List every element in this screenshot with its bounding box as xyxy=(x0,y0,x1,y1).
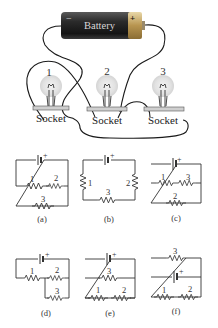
resistor-label: 2 xyxy=(173,191,177,201)
resistor-label: 3 xyxy=(173,246,177,256)
bulb-number: 1 xyxy=(46,66,52,78)
circuit-wire xyxy=(85,259,135,298)
resistor-3 xyxy=(97,197,118,203)
resistor-label: 1 xyxy=(30,266,34,276)
socket-base xyxy=(33,106,69,110)
schematic-e: + 3 1 2 (e) xyxy=(85,250,135,318)
circuit-figure: − + Battery 1 Socket 2 Socket 3 Socket xyxy=(0,0,218,328)
schematic-b: + 1 2 3 (b) xyxy=(80,151,138,224)
resistor-label: 2 xyxy=(55,265,59,275)
resistor-3 xyxy=(47,296,65,301)
battery-plus: + xyxy=(45,250,50,259)
bulb-1: 1 Socket xyxy=(33,66,69,124)
resistor-2 xyxy=(132,171,138,193)
resistor-label: 2 xyxy=(54,173,58,183)
battery-plus: + xyxy=(112,250,117,259)
schematic-caption: (a) xyxy=(37,214,47,224)
battery-plus: + xyxy=(179,267,184,276)
bulb-number: 2 xyxy=(104,65,110,77)
resistor-label: 1 xyxy=(96,285,100,295)
resistor-1 xyxy=(88,295,108,300)
resistor-label: 3 xyxy=(107,266,111,276)
schematic-caption: (e) xyxy=(105,308,115,318)
circuit-wire xyxy=(16,259,69,298)
schematic-a: + 1 2 3 (a) xyxy=(16,151,68,224)
resistor-label: 2 xyxy=(122,285,126,295)
schematic-caption: (c) xyxy=(171,213,181,223)
socket-label: Socket xyxy=(148,114,178,126)
schematic-caption: (b) xyxy=(104,214,114,224)
resistor-2 xyxy=(166,200,186,205)
resistor-label: 2 xyxy=(126,178,130,188)
resistor-label: 1 xyxy=(162,285,166,295)
resistor-2 xyxy=(46,184,64,189)
battery-plus: + xyxy=(43,151,48,160)
resistor-label: 3 xyxy=(186,172,190,182)
resistor-label: 1 xyxy=(161,172,165,182)
resistor-1 xyxy=(80,171,86,193)
resistor-2 xyxy=(111,295,131,300)
battery-plus: + xyxy=(177,155,182,164)
battery-label: Battery xyxy=(84,20,116,31)
schematic-caption: (f) xyxy=(172,306,181,316)
schematic-caption: (d) xyxy=(41,308,51,318)
bulb-3: 3 Socket xyxy=(144,65,184,126)
battery-photo: − + Battery xyxy=(61,12,145,39)
socket-label: Socket xyxy=(36,112,66,124)
resistor-label: 3 xyxy=(41,194,45,204)
resistor-label: 1 xyxy=(88,178,92,188)
bulb-2: 2 Socket xyxy=(87,65,127,126)
resistor-1 xyxy=(154,294,174,299)
socket-label: Socket xyxy=(92,114,122,126)
resistor-label: 3 xyxy=(106,187,110,197)
battery-positive-sign: + xyxy=(130,13,135,23)
resistor-3 xyxy=(166,255,186,260)
battery-negative-sign: − xyxy=(66,13,72,24)
schematic-d: + 1 2 3 (d) xyxy=(16,250,69,318)
battery-terminal xyxy=(142,21,145,30)
socket-base xyxy=(144,107,184,111)
socket-base xyxy=(87,107,127,111)
battery-plus: + xyxy=(110,151,115,160)
schematic-c: + 1 3 2 (c) xyxy=(151,155,201,223)
resistor-label: 2 xyxy=(188,284,192,294)
resistor-2 xyxy=(178,294,198,299)
schematic-f: + 3 1 2 (f) xyxy=(151,246,201,316)
bulb-number: 3 xyxy=(160,65,166,77)
resistor-2 xyxy=(47,276,65,281)
resistor-label: 3 xyxy=(55,286,59,296)
resistor-label: 1 xyxy=(30,174,34,184)
